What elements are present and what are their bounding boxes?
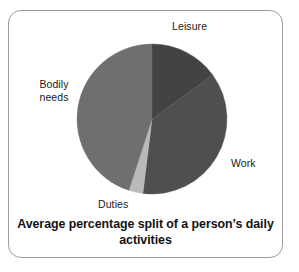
pie-label-bodily-needs: Bodily needs: [28, 78, 80, 103]
pie-chart-figure: Leisure Work Bodily needs Duties Average…: [0, 0, 299, 272]
pie-label-leisure: Leisure: [172, 20, 207, 33]
pie-label-work: Work: [231, 157, 256, 170]
chart-caption: Average percentage split of a person’s d…: [16, 216, 275, 248]
pie-slice-group: [77, 44, 227, 194]
pie-label-duties: Duties: [98, 198, 128, 211]
